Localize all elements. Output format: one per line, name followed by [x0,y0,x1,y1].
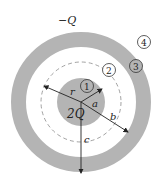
svg-text:4: 4 [141,38,147,48]
svg-text:1: 1 [84,82,90,92]
region-2-marker: 2 [103,64,116,77]
svg-text:2: 2 [106,66,112,76]
region-3-marker: 3 [130,60,143,73]
inner-charge-label: 2Q [66,107,85,121]
concentric-spheres-diagram: r a b c 2Q −Q 1 2 3 4 [0,0,165,185]
label-c: c [84,134,90,145]
label-a: a [92,98,98,109]
outer-charge-label: −Q [58,14,76,27]
label-b: b [110,111,116,122]
region-4-marker: 4 [138,36,151,49]
svg-text:3: 3 [133,62,139,72]
